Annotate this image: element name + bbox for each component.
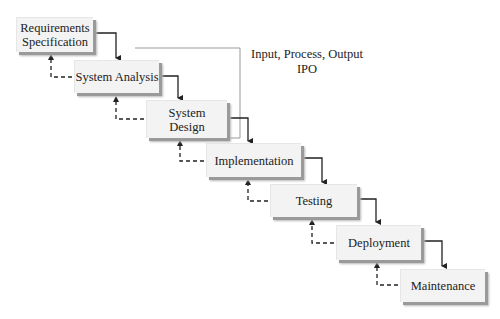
stage-label: System Analysis (76, 70, 159, 84)
stage-label: Testing (296, 194, 333, 208)
stage-testing: Testing (270, 184, 357, 217)
arrow-req-to-analysis (95, 33, 116, 58)
stage-system-design: System Design (146, 100, 227, 138)
stage-label-line1: Requirements (20, 21, 89, 35)
feedback-analysis-to-req (51, 55, 72, 77)
arrow-analysis-to-design (161, 76, 178, 98)
feedback-testing-to-impl (248, 180, 268, 201)
stage-label-line2: Design (169, 120, 206, 134)
ipo-annotation: Input, Process, Output IPO (242, 47, 372, 77)
feedback-impl-to-design (180, 141, 204, 161)
stage-label-line1: System (169, 106, 206, 120)
feedback-design-to-analysis (116, 97, 144, 119)
arrow-deploy-to-maint (423, 241, 442, 266)
stage-label: Deployment (348, 236, 410, 250)
stage-deployment: Deployment (336, 225, 421, 260)
stage-system-analysis: System Analysis (74, 60, 159, 93)
stage-label-line2: Specification (20, 35, 89, 49)
stage-label: Maintenance (411, 279, 476, 293)
stage-label: Implementation (214, 154, 293, 168)
ipo-annotation-line2: IPO (242, 62, 372, 77)
arrow-testing-to-deploy (359, 199, 376, 222)
stage-maintenance: Maintenance (400, 269, 485, 302)
feedback-maint-to-deploy (377, 263, 398, 285)
stage-requirements-specification: Requirements Specification (16, 17, 93, 52)
stage-implementation: Implementation (206, 143, 301, 177)
ipo-annotation-line1: Input, Process, Output (242, 47, 372, 62)
feedback-deploy-to-testing (312, 220, 334, 243)
arrow-impl-to-testing (303, 158, 322, 182)
